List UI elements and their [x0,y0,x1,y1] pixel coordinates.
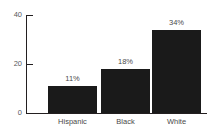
y-tick-mark-20 [26,64,33,65]
category-label-white: White [152,118,201,126]
y-tick-label-20-wrap: 20 [0,60,22,68]
y-tick-label-40-wrap: 40 [0,11,22,19]
bar-hispanic [48,86,97,113]
bar-black [101,69,150,113]
x-axis-baseline [26,113,207,114]
y-tick-label-20: 20 [14,60,22,68]
bar-value-black: 18% [101,58,150,66]
plot-area: 40 20 0 11% 18% 34% Hispanic Black White [0,0,219,137]
bar-value-hispanic: 11% [48,75,97,83]
bar-chart: 40 20 0 11% 18% 34% Hispanic Black White [0,0,219,137]
y-tick-mark-40 [26,15,33,16]
y-tick-label-0-wrap: 0 [0,109,22,117]
category-label-black: Black [101,118,150,126]
y-tick-label-0: 0 [18,109,22,117]
category-label-hispanic: Hispanic [48,118,97,126]
y-tick-label-40: 40 [14,11,22,19]
bar-white [152,30,201,113]
bar-value-white: 34% [152,19,201,27]
